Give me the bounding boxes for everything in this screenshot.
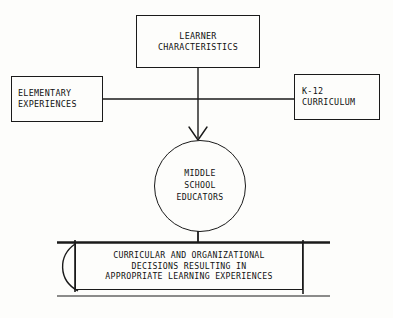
node-outcome-line-3: APPROPRIATE LEARNING EXPERIENCES	[105, 271, 272, 282]
node-learner-line-1: LEARNER	[179, 31, 216, 42]
node-elementary-experiences: ELEMENTARY EXPERIENCES	[11, 76, 103, 122]
node-educators-line-2: SCHOOL	[184, 180, 215, 192]
node-k12-line-1: K-12	[302, 86, 323, 97]
node-elementary-line-1: ELEMENTARY	[18, 88, 71, 99]
node-k12-line-2: CURRICULUM	[302, 97, 355, 108]
node-outcome-line-2: DECISIONS RESULTING IN	[131, 261, 246, 272]
node-middle-school-educators: MIDDLE SCHOOL EDUCATORS	[154, 140, 246, 232]
node-learner-characteristics: LEARNER CHARACTERISTICS	[136, 15, 260, 68]
node-elementary-line-2: EXPERIENCES	[18, 99, 77, 110]
node-outcome-line-1: CURRICULAR AND ORGANIZATIONAL	[113, 250, 265, 261]
diagram-canvas: LEARNER CHARACTERISTICS ELEMENTARY EXPER…	[0, 0, 393, 318]
node-outcome-decisions: CURRICULAR AND ORGANIZATIONAL DECISIONS …	[75, 243, 303, 290]
node-educators-line-3: EDUCATORS	[176, 192, 223, 204]
node-k12-curriculum: K-12 CURRICULUM	[294, 74, 380, 120]
node-educators-line-1: MIDDLE	[184, 168, 215, 180]
node-learner-line-2: CHARACTERISTICS	[158, 42, 238, 53]
arrowhead-into-educators-icon	[189, 127, 207, 140]
